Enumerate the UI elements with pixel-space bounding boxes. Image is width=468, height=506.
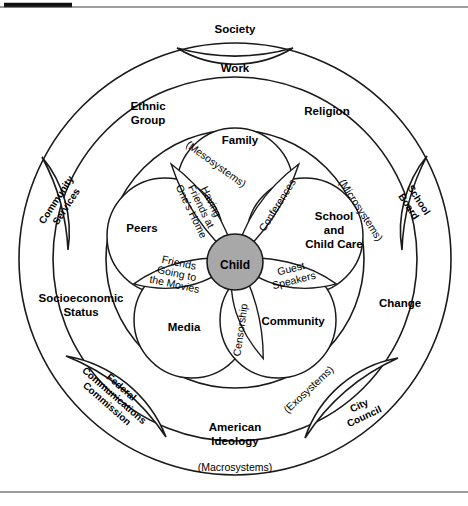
label-society: Society bbox=[215, 23, 257, 35]
figure-container: Child Society Ethnic Group Religion Soci… bbox=[0, 0, 468, 506]
annotation-macrosystems-text: (Macrosystems) bbox=[198, 461, 273, 473]
label-change: Change bbox=[379, 297, 421, 309]
label-socioeconomic-status-line1: Socioeconomic bbox=[39, 292, 125, 304]
label-ethnic-group-line1: Ethnic bbox=[130, 100, 166, 112]
label-american-ideology-line2: Ideology bbox=[211, 435, 259, 447]
label-media: Media bbox=[168, 321, 201, 333]
label-school-and-child-care-line2: and bbox=[324, 224, 344, 236]
label-socioeconomic-status-line2: Status bbox=[63, 306, 98, 318]
label-religion: Religion bbox=[304, 105, 349, 117]
label-federal-communications-commission: Federal Communications Commission bbox=[73, 356, 156, 434]
label-american-ideology-line1: American bbox=[209, 421, 261, 433]
label-school-and-child-care-line1: School bbox=[315, 210, 353, 222]
label-city-council: City Council bbox=[340, 393, 383, 429]
child-label: Child bbox=[220, 258, 250, 272]
label-community-services: Community Services bbox=[36, 173, 85, 232]
label-school-and-child-care-line3: Child Care bbox=[305, 238, 363, 250]
label-community: Community bbox=[261, 315, 325, 327]
label-peers: Peers bbox=[126, 222, 157, 234]
label-work: Work bbox=[221, 62, 250, 74]
label-family: Family bbox=[222, 134, 259, 146]
label-ethnic-group-line2: Group bbox=[131, 114, 166, 126]
ecological-systems-diagram: Child Society Ethnic Group Religion Soci… bbox=[0, 0, 468, 506]
